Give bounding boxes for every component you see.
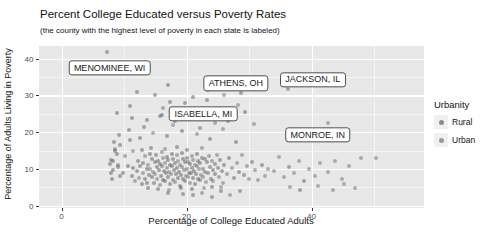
data-point [166, 83, 170, 87]
data-point [287, 165, 291, 169]
data-point [198, 161, 202, 165]
data-point [110, 177, 114, 181]
data-point [145, 181, 149, 185]
data-point [161, 106, 165, 110]
data-point [135, 90, 139, 94]
data-point [153, 172, 157, 176]
data-point [210, 185, 214, 189]
data-point [326, 170, 330, 174]
data-point [208, 137, 212, 141]
data-point [137, 176, 141, 180]
county-label: MENOMINEE, WI [68, 60, 151, 75]
data-point [115, 111, 119, 115]
rural-point-icon [439, 120, 444, 125]
data-point [108, 162, 112, 166]
data-point [222, 93, 226, 97]
data-point [153, 93, 157, 97]
data-point [230, 166, 234, 170]
data-point [277, 155, 281, 159]
data-point [152, 181, 156, 185]
data-point [190, 187, 194, 191]
county-label: JACKSON, IL [280, 72, 346, 87]
data-point [142, 125, 146, 129]
labeled-data-point [326, 121, 330, 125]
data-point [163, 179, 167, 183]
data-point [210, 195, 214, 199]
data-point [165, 134, 169, 138]
data-point [198, 178, 202, 182]
data-point [201, 175, 205, 179]
data-point [302, 179, 306, 183]
labeled-data-point [160, 113, 164, 117]
data-point [130, 174, 134, 178]
data-point [256, 178, 260, 182]
data-point [204, 180, 208, 184]
data-point [135, 169, 139, 173]
data-point [146, 186, 150, 190]
y-axis-tick-mark [36, 132, 39, 133]
data-point [266, 167, 270, 171]
data-point [141, 161, 145, 165]
data-point [234, 140, 238, 144]
labeled-data-point [239, 91, 243, 95]
data-point [263, 174, 267, 178]
data-point [191, 176, 195, 180]
data-point [205, 98, 209, 102]
data-point [154, 153, 158, 157]
data-point [171, 123, 175, 127]
labeled-data-point [286, 87, 290, 91]
data-point [253, 168, 257, 172]
chart-subtitle: (the county with the highest level of po… [40, 26, 280, 35]
minor-gridline-horizontal [39, 187, 425, 188]
data-point [245, 164, 249, 168]
y-axis-tick-label: 10 [8, 164, 34, 173]
data-point [218, 158, 222, 162]
labeled-data-point [105, 50, 109, 54]
data-point [111, 159, 115, 163]
data-point [168, 182, 172, 186]
data-point [359, 156, 363, 160]
data-point [193, 182, 197, 186]
data-point [148, 152, 152, 156]
y-axis-tick-label: 0 [8, 201, 34, 210]
data-point [225, 172, 229, 176]
legend-entry: Rural [434, 115, 492, 129]
y-axis-tick-label: 20 [8, 128, 34, 137]
data-point [211, 179, 215, 183]
legend-key [434, 133, 448, 147]
data-point [220, 169, 224, 173]
data-point [313, 174, 317, 178]
data-point [307, 167, 311, 171]
data-point [252, 122, 256, 126]
data-point [194, 172, 198, 176]
data-point [140, 182, 144, 186]
data-point [297, 159, 301, 163]
data-point [242, 173, 246, 177]
data-point [166, 191, 170, 195]
data-point [191, 158, 195, 162]
data-point [288, 185, 292, 189]
county-label: MONROE, IN [285, 127, 351, 142]
data-point [173, 180, 177, 184]
data-point [186, 175, 190, 179]
data-point [227, 156, 231, 160]
data-point [215, 153, 219, 157]
data-point [128, 138, 132, 142]
plot-panel: MENOMINEE, WIATHENS, OHJACKSON, ILISABEL… [39, 46, 425, 208]
data-point [128, 104, 132, 108]
y-axis-title: Percentage of Adults Living in Poverty [3, 44, 13, 204]
data-point [143, 154, 147, 158]
legend-key [434, 115, 448, 129]
data-point [205, 160, 209, 164]
data-point [353, 186, 357, 190]
data-point [191, 193, 195, 197]
data-point [374, 156, 378, 160]
data-point [243, 110, 247, 114]
data-point [238, 189, 242, 193]
data-point [207, 154, 211, 158]
data-point [175, 145, 179, 149]
legend-entries: RuralUrban [434, 115, 492, 147]
data-point [131, 149, 135, 153]
data-point [117, 133, 121, 137]
minor-gridline-vertical [249, 46, 250, 208]
